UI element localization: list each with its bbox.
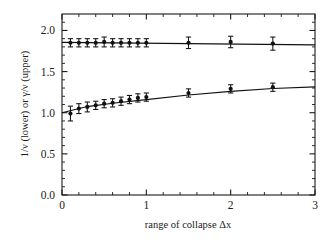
- data-point: [110, 99, 115, 107]
- figure-container: 0123 0.00.51.01.52.0 range of collapse Δ…: [0, 0, 330, 244]
- y-tick-label: 0.0: [41, 189, 56, 201]
- x-tick-label: 0: [59, 199, 65, 211]
- y-axis-tick-labels: 0.00.51.01.52.0: [41, 24, 56, 201]
- data-point: [68, 106, 73, 121]
- data-point: [110, 39, 115, 47]
- x-tick-label: 2: [228, 199, 234, 211]
- data-point: [68, 39, 73, 47]
- data-point: [118, 97, 123, 105]
- x-axis-title: range of collapse Δx: [145, 219, 232, 230]
- data-point: [270, 83, 275, 91]
- data-point: [144, 39, 149, 47]
- data-point: [102, 100, 107, 108]
- data-point: [76, 104, 81, 114]
- scatter-plot: 0123 0.00.51.01.52.0 range of collapse Δ…: [0, 0, 330, 244]
- data-point: [85, 39, 90, 47]
- y-tick-label: 1.5: [41, 66, 56, 78]
- data-point: [102, 37, 107, 47]
- data-point: [118, 39, 123, 47]
- x-axis-tick-labels: 0123: [59, 199, 318, 211]
- data-point: [127, 39, 132, 47]
- y-axis-major-ticks: [62, 30, 315, 195]
- fit-lines-group: [62, 42, 315, 112]
- y-tick-label: 0.5: [41, 148, 56, 160]
- data-point: [228, 36, 233, 48]
- y-tick-label: 1.0: [41, 107, 56, 119]
- y-tick-label: 2.0: [41, 24, 56, 36]
- data-point: [270, 37, 275, 50]
- data-point: [186, 89, 191, 97]
- data-point: [127, 95, 132, 103]
- x-tick-label: 1: [143, 199, 149, 211]
- data-point: [93, 101, 98, 109]
- data-point: [93, 39, 98, 47]
- series-lower-one-over-nu: [68, 83, 276, 121]
- data-point: [85, 102, 90, 112]
- data-point: [135, 39, 140, 47]
- data-point: [76, 39, 81, 47]
- x-tick-label: 3: [312, 199, 318, 211]
- y-axis-title: 1/ν (lower) or γ/ν (upper): [19, 50, 31, 157]
- data-point: [186, 37, 191, 49]
